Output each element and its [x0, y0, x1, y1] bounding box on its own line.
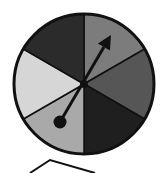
spinner-diagram: [0, 0, 167, 173]
arrow-tail-knob: [54, 116, 67, 129]
center-hub: [80, 80, 88, 88]
partial-shape-outline: [30, 160, 95, 173]
